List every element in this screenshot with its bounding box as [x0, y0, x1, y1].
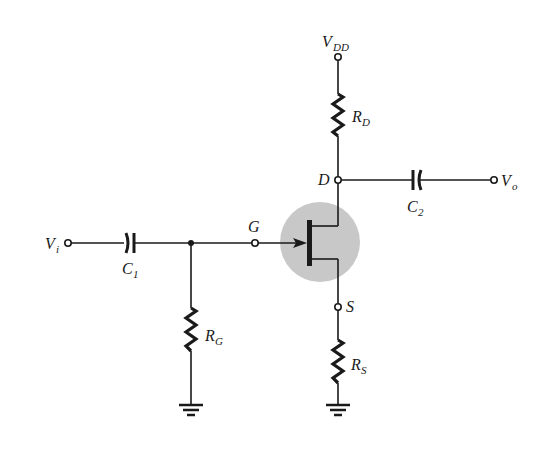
svg-text:2: 2	[418, 206, 424, 218]
svg-text:S: S	[361, 364, 367, 376]
ground-icon	[179, 405, 203, 415]
rg-label: R G	[204, 327, 223, 347]
rs-resistor	[333, 340, 343, 383]
source-label: S	[346, 298, 354, 315]
vi-terminal	[65, 240, 71, 246]
drain-terminal	[335, 177, 341, 183]
svg-text:G: G	[215, 335, 223, 347]
c1-capacitor	[126, 233, 134, 253]
gate-terminal	[252, 240, 258, 246]
svg-text:C: C	[122, 260, 133, 277]
gate-label: G	[248, 218, 260, 235]
circuit-diagram: V DD R D D V o C 2 S R	[0, 0, 545, 465]
vdd-terminal	[335, 54, 341, 60]
vo-terminal	[491, 177, 497, 183]
svg-text:1: 1	[133, 268, 139, 280]
svg-text:R: R	[204, 327, 215, 344]
jfet-highlight-circle	[280, 202, 360, 282]
vi-label: V i	[45, 235, 59, 255]
svg-text:i: i	[56, 243, 59, 255]
vo-label: V o	[501, 172, 518, 192]
c1-label: C 1	[122, 260, 139, 280]
svg-text:o: o	[512, 180, 518, 192]
svg-text:D: D	[361, 116, 370, 128]
vdd-label: V DD	[322, 33, 349, 53]
c2-label: C 2	[407, 198, 424, 218]
drain-label: D	[317, 171, 330, 188]
ground-icon	[326, 405, 350, 415]
svg-text:R: R	[351, 108, 362, 125]
svg-text:R: R	[350, 356, 361, 373]
rd-label: R D	[351, 108, 370, 128]
svg-text:C: C	[407, 198, 418, 215]
svg-text:DD: DD	[332, 41, 349, 53]
rd-resistor	[333, 94, 343, 136]
source-terminal	[335, 304, 341, 310]
rs-label: R S	[350, 356, 367, 376]
rg-resistor	[186, 308, 196, 351]
